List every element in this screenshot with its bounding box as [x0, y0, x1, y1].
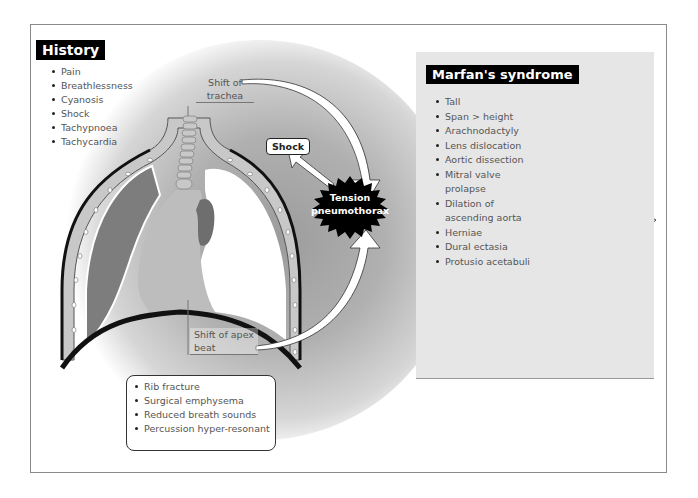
arrow-tension-to-shock [288, 150, 334, 188]
history-item: Cyanosis [52, 93, 133, 107]
history-item: Breathlessness [52, 79, 133, 93]
marfan-item: Span > height [436, 110, 530, 125]
signs-list: Rib fracture Surgical emphysema Reduced … [135, 380, 270, 436]
marfan-item: Dilation of ascending aorta [436, 197, 529, 226]
marfan-item: Herniae [436, 226, 530, 241]
tension-label-line2: pneumothorax [300, 204, 400, 217]
signs-box: Rib fracture Surgical emphysema Reduced … [126, 375, 276, 451]
history-item: Pain [52, 65, 133, 79]
apex-shift-label: Shift of apex beat [190, 328, 258, 355]
marfan-title: Marfan's syndrome [426, 65, 579, 84]
marfan-item: Dural ectasia [436, 240, 530, 255]
sign-item: Percussion hyper-resonant [135, 422, 270, 436]
marfan-item: Protusio acetabuli [436, 255, 530, 270]
tension-pneumothorax-label: Tension pneumothorax [300, 191, 400, 217]
marfan-item: Arachnodactyly [436, 124, 530, 139]
tension-label-line1: Tension [300, 191, 400, 204]
sign-item: Reduced breath sounds [135, 408, 270, 422]
marfan-item: Aortic dissection [436, 153, 530, 168]
history-item: Shock [52, 107, 133, 121]
marfan-list: Tall Span > height Arachnodactyly Lens d… [436, 95, 530, 269]
history-item: Tachypnoea [52, 121, 133, 135]
history-title: History [36, 40, 105, 60]
marfan-item: Tall [436, 95, 530, 110]
trachea-shift-label: Shift of trachea [196, 76, 254, 103]
marfan-item: Lens dislocation [436, 139, 530, 154]
history-list: Pain Breathlessness Cyanosis Shock Tachy… [52, 65, 133, 149]
sign-item: Rib fracture [135, 380, 270, 394]
marfan-panel: Marfan's syndrome Tall Span > height Ara… [416, 52, 654, 379]
marfan-item: Mitral valve prolapse [436, 168, 529, 197]
shock-label: Shock [266, 138, 310, 155]
history-item: Tachycardia [52, 135, 133, 149]
sign-item: Surgical emphysema [135, 394, 270, 408]
